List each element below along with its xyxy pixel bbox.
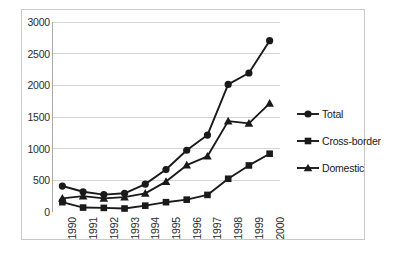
data-point-triangle (141, 189, 150, 197)
x-axis-tick-label: 1998 (233, 217, 244, 240)
data-point-square (266, 150, 273, 157)
data-point-square (305, 138, 312, 145)
data-point-square (163, 199, 170, 206)
data-point-circle (59, 182, 66, 189)
data-point-square (80, 204, 87, 211)
legend-item-total[interactable]: Total (296, 104, 396, 124)
data-point-circle (142, 181, 149, 188)
x-axis: 1990199119921993199419951996199719981999… (52, 214, 280, 260)
data-point-square (121, 205, 128, 212)
y-axis-tick-label: 1000 (10, 144, 50, 155)
legend-item-domestic[interactable]: Domestic (296, 158, 396, 178)
data-point-circle (304, 110, 311, 117)
data-point-square (246, 162, 253, 169)
series-domestic (58, 99, 274, 202)
x-axis-tick-label: 1993 (130, 217, 141, 240)
x-axis-tick-label: 1994 (150, 217, 161, 240)
y-axis-tick-label: 500 (10, 175, 50, 186)
y-axis: 050010001500200025003000 (6, 0, 50, 263)
legend-marker-triangle-icon (296, 162, 320, 174)
data-point-circle (162, 166, 169, 173)
data-point-square (142, 202, 149, 209)
plot-svg (52, 22, 280, 212)
data-point-circle (225, 81, 232, 88)
x-axis-tick-label: 1997 (212, 217, 223, 240)
x-axis-tick-label: 2000 (275, 217, 286, 240)
y-axis-tick-label: 2500 (10, 49, 50, 60)
y-axis-tick-label: 2000 (10, 80, 50, 91)
legend-label: Cross-border (322, 136, 381, 147)
x-axis-tick-label: 1991 (88, 217, 99, 240)
legend-label: Domestic (322, 163, 364, 174)
y-axis-tick-label: 0 (10, 207, 50, 218)
x-axis-tick-label: 1992 (109, 217, 120, 240)
series-layer (58, 37, 274, 212)
data-point-square (183, 196, 190, 203)
series-total (59, 37, 273, 198)
plot-area (52, 22, 280, 212)
legend-marker-square-icon (296, 135, 320, 147)
legend-marker-circle-icon (296, 108, 320, 120)
data-point-circle (204, 131, 211, 138)
data-point-circle (183, 147, 190, 154)
x-axis-tick-label: 1990 (67, 217, 78, 240)
x-axis-tick-label: 1995 (171, 217, 182, 240)
data-point-square (225, 175, 232, 182)
legend-label: Total (322, 109, 343, 120)
data-point-triangle (203, 152, 212, 160)
data-point-triangle (265, 99, 274, 107)
x-axis-tick-label: 1999 (254, 217, 265, 240)
y-axis-tick-label: 1500 (10, 112, 50, 123)
chart-legend: TotalCross-borderDomestic (296, 104, 396, 185)
data-point-square (204, 192, 211, 199)
legend-item-cross-border[interactable]: Cross-border (296, 131, 396, 151)
data-point-circle (266, 37, 273, 44)
data-point-square (101, 205, 108, 212)
data-point-circle (245, 69, 252, 76)
y-axis-tick-label: 3000 (10, 17, 50, 28)
x-axis-tick-label: 1996 (192, 217, 203, 240)
chart-container: 050010001500200025003000 199019911992199… (0, 0, 402, 263)
